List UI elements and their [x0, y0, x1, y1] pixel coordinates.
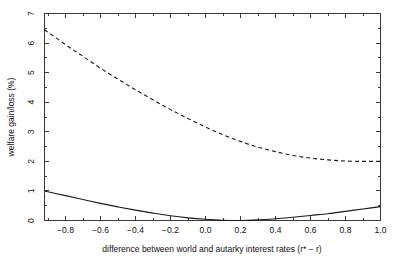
x-tick-label: −0.4	[127, 225, 144, 235]
x-tick-label: 1.0	[375, 225, 387, 235]
y-tick-label: 2	[26, 159, 36, 164]
y-tick-label: 1	[26, 188, 36, 193]
x-tick-label: 0.2	[235, 225, 247, 235]
y-axis-title: welfare gain/loss (%)	[6, 77, 16, 157]
y-tick-label: 6	[26, 40, 36, 45]
y-tick-label: 5	[26, 70, 36, 75]
y-tick-label: 4	[26, 100, 36, 105]
x-tick-label: 0.6	[305, 225, 317, 235]
x-tick-label: −0.6	[92, 225, 109, 235]
welfare-gain-loss-line-chart: −0.8−0.6−0.4−0.20.00.20.40.60.81.0 01234…	[0, 0, 397, 263]
y-tick-label: 0	[26, 218, 36, 223]
x-tick-label: 0.8	[340, 225, 352, 235]
x-tick-label: 0.4	[270, 225, 282, 235]
x-tick-label: −0.2	[162, 225, 179, 235]
y-tick-label: 3	[26, 129, 36, 134]
y-tick-label: 7	[26, 11, 36, 16]
x-axis-title: difference between world and autarky int…	[102, 244, 321, 254]
x-tick-label: 0.0	[200, 225, 212, 235]
x-tick-label: −0.8	[57, 225, 74, 235]
chart-figure: −0.8−0.6−0.4−0.20.00.20.40.60.81.0 01234…	[0, 0, 397, 263]
